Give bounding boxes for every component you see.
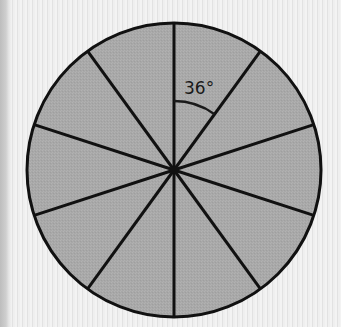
center-point xyxy=(170,166,178,174)
pie-diagram: 36° xyxy=(0,0,341,327)
angle-label: 36° xyxy=(184,78,214,98)
